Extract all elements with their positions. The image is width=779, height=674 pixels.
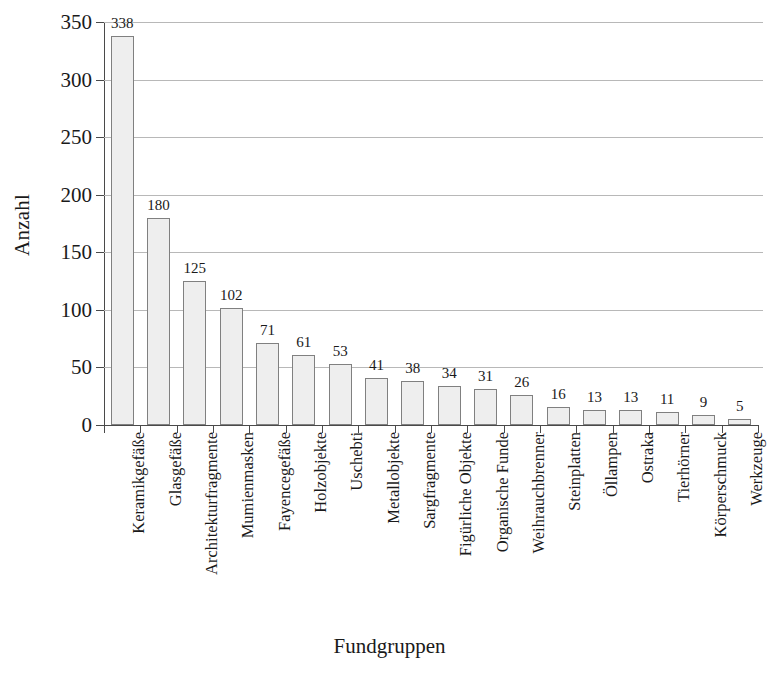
bar[interactable] — [728, 419, 751, 425]
bar-value-label: 38 — [405, 360, 420, 377]
x-axis-category-label: Ostraka — [638, 432, 658, 483]
gridline — [104, 137, 763, 138]
y-tick-mark — [96, 252, 104, 253]
x-axis-category-label-text: Steinplatten — [565, 432, 585, 511]
bar-value-label: 53 — [333, 343, 348, 360]
x-axis-category-label: Körperschmuck — [711, 432, 731, 537]
bar[interactable] — [147, 218, 170, 425]
bar[interactable] — [510, 395, 533, 425]
bar-value-label: 16 — [551, 386, 566, 403]
bar[interactable] — [692, 415, 715, 425]
y-tick-label: 200 — [61, 182, 93, 207]
gridline — [104, 22, 763, 23]
y-tick-mark — [96, 80, 104, 81]
gridline — [104, 80, 763, 81]
bar[interactable] — [111, 36, 134, 425]
x-axis-category-label-text: Metallobjekte — [384, 432, 404, 524]
bar-value-label: 338 — [111, 15, 134, 32]
x-axis-title: Fundgruppen — [0, 634, 779, 659]
bar[interactable] — [619, 410, 642, 425]
bar[interactable] — [220, 308, 243, 425]
y-tick-mark — [96, 310, 104, 311]
x-tick-mark — [104, 425, 105, 433]
bar-value-label: 34 — [442, 365, 457, 382]
x-axis-category-label-text: Fayencegefäße — [275, 432, 295, 531]
gridline — [104, 195, 763, 196]
x-axis-category-label: Holzobjekte — [311, 432, 331, 513]
bar[interactable] — [401, 381, 424, 425]
x-axis-category-label-text: Mumienmasken — [238, 432, 258, 538]
y-tick-mark — [96, 195, 104, 196]
x-axis-category-label: Architekturfragmente — [202, 432, 222, 575]
y-tick-label: 100 — [61, 297, 93, 322]
x-axis-category-label: Organische Funde — [493, 432, 513, 552]
bar[interactable] — [474, 389, 497, 425]
x-axis-category-label: Mumienmasken — [238, 432, 258, 538]
bar-chart: Anzahl 050100150200250300350338180125102… — [0, 0, 779, 674]
bar-value-label: 61 — [296, 334, 311, 351]
x-axis-category-label: Metallobjekte — [384, 432, 404, 524]
x-axis-category-label-text: Körperschmuck — [711, 432, 731, 537]
bar-value-label: 13 — [587, 389, 602, 406]
y-tick-label: 350 — [61, 10, 93, 35]
x-axis-category-label-text: Keramikgefäße — [129, 432, 149, 534]
x-axis-category-label: Tierhörner — [674, 432, 694, 502]
y-tick-label: 150 — [61, 240, 93, 265]
bar[interactable] — [256, 343, 279, 425]
x-axis-category-label-text: Holzobjekte — [311, 432, 331, 513]
y-tick-mark — [96, 137, 104, 138]
y-tick-label: 250 — [61, 125, 93, 150]
x-axis-category-label-text: Figürliche Objekte — [456, 432, 476, 556]
bar[interactable] — [656, 412, 679, 425]
bar-value-label: 180 — [147, 197, 170, 214]
x-axis-category-label: Sargfragmente — [420, 432, 440, 529]
x-axis-category-label-text: Weihrauchbrenner — [529, 432, 549, 553]
bar[interactable] — [583, 410, 606, 425]
x-axis-category-label-text: Organische Funde — [493, 432, 513, 552]
x-axis-category-label: Steinplatten — [565, 432, 585, 511]
bar-value-label: 11 — [660, 391, 674, 408]
bar-value-label: 41 — [369, 357, 384, 374]
x-axis-category-label-text: Sargfragmente — [420, 432, 440, 529]
x-axis-category-label: Glasgefäße — [166, 432, 186, 506]
y-tick-label: 50 — [71, 355, 92, 380]
bar-value-label: 13 — [623, 389, 638, 406]
x-axis-category-label: Keramikgefäße — [129, 432, 149, 534]
x-axis-category-label-text: Tierhörner — [674, 432, 694, 502]
x-axis-category-label: Uschebti — [347, 432, 367, 491]
y-tick-label: 300 — [61, 67, 93, 92]
x-axis-category-label: Öllampen — [602, 432, 622, 497]
bar[interactable] — [547, 407, 570, 425]
y-tick-mark — [96, 425, 104, 426]
x-axis-category-label-text: Glasgefäße — [166, 432, 186, 506]
x-axis-category-label: Fayencegefäße — [275, 432, 295, 531]
x-axis-category-label-text: Architekturfragmente — [202, 432, 222, 575]
bar-value-label: 31 — [478, 368, 493, 385]
bar[interactable] — [183, 281, 206, 425]
x-axis-category-label: Werkzeuge — [747, 432, 767, 506]
bar-value-label: 9 — [700, 394, 708, 411]
bar[interactable] — [292, 355, 315, 425]
y-axis-title: Anzahl — [10, 155, 35, 295]
plot-area: 0501001502002503003503381801251027161534… — [104, 22, 758, 425]
bar[interactable] — [365, 378, 388, 425]
bar-value-label: 102 — [220, 287, 243, 304]
x-axis-category-label-text: Öllampen — [602, 432, 622, 497]
bar-value-label: 26 — [514, 374, 529, 391]
gridline — [104, 252, 763, 253]
x-axis-category-label: Weihrauchbrenner — [529, 432, 549, 553]
bar-value-label: 125 — [184, 260, 207, 277]
bar-value-label: 71 — [260, 322, 275, 339]
y-tick-mark — [96, 367, 104, 368]
x-axis-category-label-text: Ostraka — [638, 432, 658, 483]
bar-value-label: 5 — [736, 398, 744, 415]
x-axis-category-label: Figürliche Objekte — [456, 432, 476, 556]
y-tick-label: 0 — [82, 413, 93, 438]
x-axis-category-label-text: Werkzeuge — [747, 432, 767, 506]
y-tick-mark — [96, 22, 104, 23]
bar[interactable] — [438, 386, 461, 425]
x-axis-category-label-text: Uschebti — [347, 432, 367, 491]
bar[interactable] — [329, 364, 352, 425]
